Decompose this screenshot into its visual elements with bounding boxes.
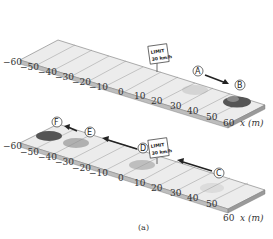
svg-text:D: D xyxy=(140,144,146,153)
svg-text:A: A xyxy=(195,67,201,76)
svg-text:−50: −50 xyxy=(20,147,39,157)
speed-limit-sign-top: LIMIT 30 km/h xyxy=(148,44,172,72)
arrow-positive-x xyxy=(205,75,226,83)
svg-text:50: 50 xyxy=(206,112,218,122)
point-label-A: A xyxy=(193,66,203,76)
svg-text:10: 10 xyxy=(134,91,146,101)
point-label-E: E xyxy=(85,127,95,137)
svg-text:F: F xyxy=(54,118,59,127)
svg-text:60: 60 xyxy=(223,213,235,223)
svg-text:0: 0 xyxy=(118,87,124,97)
svg-text:C: C xyxy=(216,169,222,178)
svg-text:B: B xyxy=(237,81,243,90)
motion-diagram: LIMIT 30 km/h A B −60 −50 −40 −30 −20 −1… xyxy=(0,0,273,239)
car-ghost-A xyxy=(182,85,208,95)
point-label-D: D xyxy=(138,143,148,153)
svg-text:20: 20 xyxy=(151,183,163,193)
car-ghost-C xyxy=(200,183,224,193)
car-F xyxy=(36,131,62,141)
svg-text:0: 0 xyxy=(118,173,124,183)
svg-text:20: 20 xyxy=(151,96,163,106)
point-label-F: F xyxy=(52,117,62,127)
svg-text:30: 30 xyxy=(170,101,182,111)
svg-text:50: 50 xyxy=(206,199,218,209)
car-D xyxy=(129,160,155,170)
svg-text:40: 40 xyxy=(187,106,199,116)
svg-text:x (m): x (m) xyxy=(240,213,264,223)
svg-text:40: 40 xyxy=(187,193,199,203)
car-E xyxy=(63,138,89,148)
svg-text:30: 30 xyxy=(170,188,182,198)
svg-text:−10: −10 xyxy=(89,168,108,178)
svg-text:−50: −50 xyxy=(20,62,39,72)
svg-text:60: 60 xyxy=(223,118,235,128)
svg-text:E: E xyxy=(87,128,92,137)
figure-caption: (a) xyxy=(138,223,149,232)
svg-text:−10: −10 xyxy=(89,82,108,92)
svg-text:x (m): x (m) xyxy=(240,118,264,128)
svg-text:10: 10 xyxy=(134,178,146,188)
point-label-C: C xyxy=(214,168,224,178)
point-label-B: B xyxy=(235,80,245,90)
